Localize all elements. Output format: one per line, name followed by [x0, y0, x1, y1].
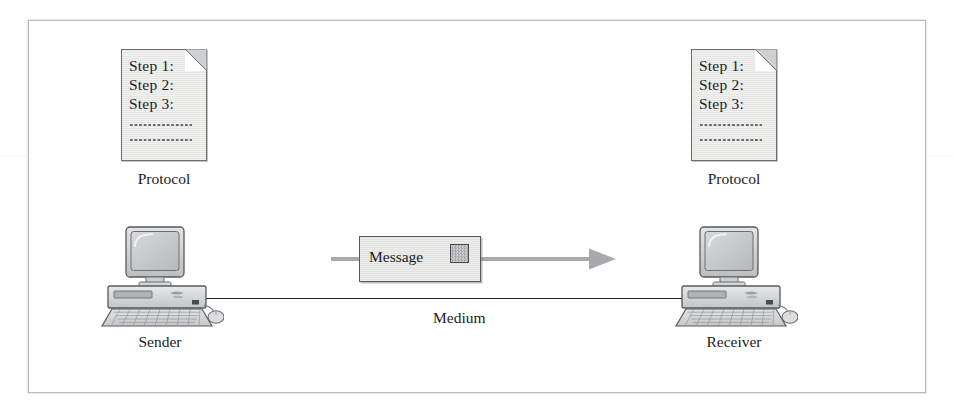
- message-group: Message: [331, 226, 619, 282]
- protocol-caption: Protocol: [99, 170, 229, 188]
- medium-line-icon: [197, 298, 724, 299]
- figure-frame: Step 1: Step 2: Step 3: Protocol: [28, 20, 926, 393]
- medium-label: Medium: [433, 309, 486, 327]
- message-envelope: Message: [359, 236, 481, 282]
- document-dotted-line: [699, 137, 762, 141]
- message-label: Message: [369, 248, 423, 266]
- document-folded-corner-icon: Step 1: Step 2: Step 3:: [691, 49, 777, 161]
- receiver-computer-group: Receiver: [659, 225, 809, 351]
- figure-canvas: Step 1: Step 2: Step 3: Protocol: [0, 0, 953, 413]
- document-folded-corner-icon: Step 1: Step 2: Step 3:: [121, 49, 207, 161]
- document-dotted-line: [129, 122, 192, 126]
- sender-protocol-group: Step 1: Step 2: Step 3: Protocol: [99, 49, 229, 188]
- receiver-protocol-group: Step 1: Step 2: Step 3: Protocol: [669, 49, 799, 188]
- stamp-square-icon: [450, 244, 469, 263]
- protocol-step-2: Step 2:: [699, 75, 770, 94]
- document-dotted-line: [699, 122, 762, 126]
- document-dotted-line: [129, 137, 192, 141]
- receiver-caption: Receiver: [659, 333, 809, 351]
- protocol-step-2: Step 2:: [129, 75, 200, 94]
- protocol-caption: Protocol: [669, 170, 799, 188]
- document-fold-icon: [185, 49, 207, 71]
- sender-computer-group: Sender: [85, 225, 235, 351]
- scan-artifact: [0, 0, 953, 16]
- protocol-step-3: Step 3:: [129, 94, 200, 113]
- desktop-computer-icon: [96, 225, 224, 331]
- protocol-step-3: Step 3:: [699, 94, 770, 113]
- sender-caption: Sender: [85, 333, 235, 351]
- desktop-computer-icon: [670, 225, 798, 331]
- document-fold-icon: [755, 49, 777, 71]
